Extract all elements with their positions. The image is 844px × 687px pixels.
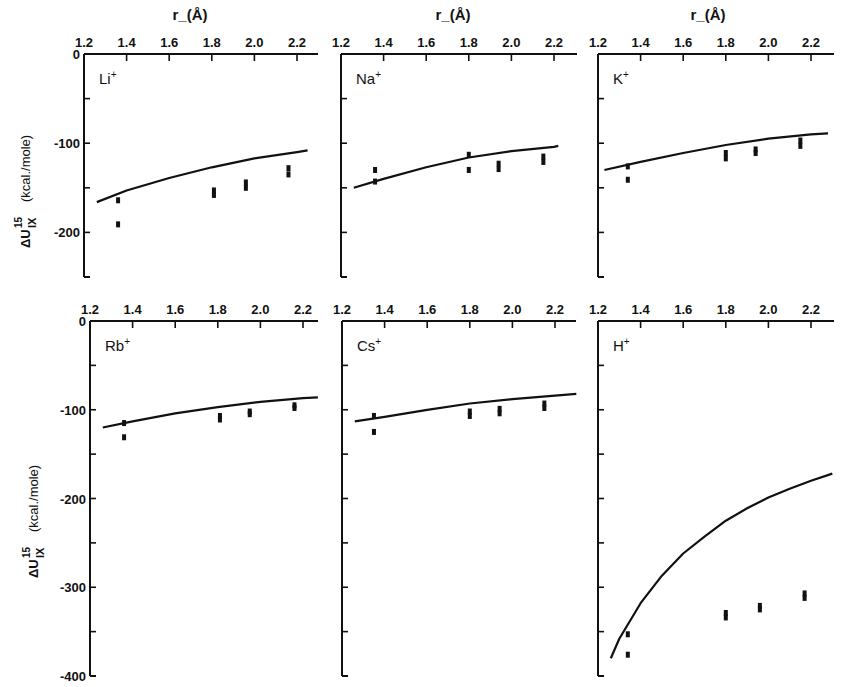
x-tick-label: 1.2 [589,35,607,50]
experimental-point [373,179,377,185]
experimental-point [541,159,545,165]
experimental-point [373,167,377,173]
calculated-curve [354,146,559,188]
y-tick-label: -200 [54,225,80,240]
experimental-point [626,631,630,637]
x-tick-label: 2.0 [759,302,777,317]
x-tick-label: 1.8 [203,35,221,50]
x-tick-label: 2.2 [545,35,563,50]
y-tick-label: -100 [54,136,80,151]
x-tick-label: 1.6 [674,302,692,317]
y-tick-label: -300 [60,580,86,595]
x-axis-title-li: r_(Å) [172,6,207,23]
experimental-point [248,411,252,417]
calculated-curve [103,397,318,427]
x-tick-label: 1.8 [717,35,735,50]
experimental-point [218,417,222,423]
x-axis-title-na: r_(Å) [435,6,470,23]
ion-label: K+ [613,69,629,87]
ion-label: Na+ [356,69,381,87]
experimental-point [212,192,216,198]
y-title-delta-u: ΔU [26,559,41,578]
x-tick-label: 1.8 [209,302,227,317]
x-tick-label: 1.4 [376,302,395,317]
panel-h: 1.21.41.61.82.02.2H+ [589,302,834,676]
experimental-point [626,163,630,169]
experimental-point [122,420,126,426]
y-axis-title-top: ΔU 15 IX (kcal./mole) [13,135,38,248]
x-tick-label: 1.8 [461,302,479,317]
x-tick-label: 2.0 [245,35,263,50]
x-tick-label: 1.2 [589,302,607,317]
x-tick-label: 1.4 [375,35,394,50]
x-tick-label: 2.0 [759,35,777,50]
y-title-sub: IX [34,547,46,558]
experimental-point [803,595,807,601]
experimental-point [468,413,472,419]
x-tick-label: 2.2 [802,35,820,50]
x-tick-label: 1.4 [118,35,137,50]
y-title-sup: 15 [13,216,24,228]
x-tick-label: 1.6 [418,302,436,317]
experimental-point [541,154,545,160]
x-tick-label: 1.4 [632,302,651,317]
experimental-point [292,405,296,411]
panels: 1.21.41.61.82.02.20-100-200Li+1.21.41.61… [54,35,834,684]
ion-label: Li+ [99,69,117,87]
y-tick-label: 0 [79,314,86,329]
experimental-point [116,197,120,203]
x-tick-label: 1.8 [460,35,478,50]
y-tick-label: -200 [60,492,86,507]
experimental-point [372,429,376,435]
figure: 1.21.41.61.82.02.20-100-200Li+1.21.41.61… [0,0,844,687]
x-tick-label: 1.6 [166,302,184,317]
six-panel-chart: 1.21.41.61.82.02.20-100-200Li+1.21.41.61… [0,0,844,687]
y-title-units: (kcal./mole) [18,135,33,202]
x-tick-label: 2.2 [294,302,312,317]
calculated-curve [611,474,833,659]
experimental-point [798,143,802,149]
ion-label: H+ [613,336,630,354]
x-tick-label: 2.2 [802,302,820,317]
y-title-sub: IX [26,217,38,228]
experimental-point [372,413,376,419]
experimental-point [724,155,728,161]
experimental-point [626,177,630,183]
x-tick-label: 2.0 [251,302,269,317]
y-tick-label: -400 [60,669,86,684]
x-tick-label: 1.4 [124,302,143,317]
y-tick-label: 0 [73,47,80,62]
experimental-point [467,167,471,173]
experimental-point [244,185,248,191]
experimental-point [724,614,728,620]
panel-cs: 1.21.41.61.82.02.2Cs+ [333,302,576,676]
experimental-point [286,171,290,177]
x-tick-label: 2.2 [288,35,306,50]
y-axis-title-bottom: ΔU 15 IX (kcal./mole) [21,465,46,578]
y-tick-label: -100 [60,403,86,418]
experimental-point [116,221,120,227]
x-tick-label: 1.6 [417,35,435,50]
experimental-point [798,138,802,144]
experimental-point [497,161,501,167]
experimental-point [122,434,126,440]
experimental-point [498,410,502,416]
ion-label: Cs+ [357,336,381,354]
experimental-point [758,606,762,612]
experimental-point [497,166,501,172]
x-axis-title-k: r_(Å) [690,6,725,23]
x-tick-label: 1.2 [333,302,351,317]
experimental-point [724,150,728,156]
experimental-point [542,405,546,411]
x-tick-label: 2.0 [502,35,520,50]
panel-li: 1.21.41.61.82.02.20-100-200Li+ [54,35,318,277]
experimental-point [286,165,290,171]
experimental-point [626,652,630,658]
experimental-point [244,179,248,185]
x-tick-label: 1.6 [160,35,178,50]
panel-rb: 1.21.41.61.82.02.20-100-200-300-400Rb+ [60,302,318,684]
y-title-delta-u: ΔU [18,229,33,248]
experimental-point [467,152,471,158]
y-title-sup: 15 [21,546,32,558]
x-tick-label: 1.6 [674,35,692,50]
